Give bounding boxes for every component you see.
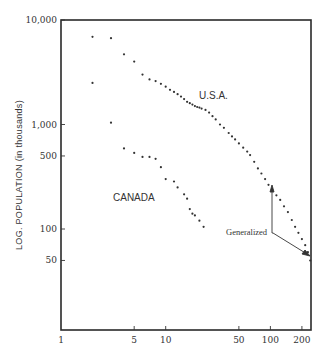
data-point <box>91 36 93 38</box>
data-point <box>165 86 167 88</box>
data-point <box>110 37 112 39</box>
data-point <box>267 184 269 186</box>
data-point <box>133 152 135 154</box>
data-point <box>123 53 125 55</box>
data-point <box>194 214 196 216</box>
data-point <box>201 108 203 110</box>
plot-frame <box>61 20 311 330</box>
x-tick-label: 50 <box>233 335 245 345</box>
data-point <box>160 83 162 85</box>
data-point <box>198 220 200 222</box>
data-point <box>234 138 236 140</box>
data-point <box>246 151 248 153</box>
data-point <box>141 74 143 76</box>
data-point <box>191 104 193 106</box>
data-point <box>186 101 188 103</box>
data-point <box>189 102 191 104</box>
data-point <box>297 232 299 234</box>
data-point <box>264 178 266 180</box>
data-point <box>173 91 175 93</box>
data-point <box>301 238 303 240</box>
data-point <box>123 147 125 149</box>
data-point <box>160 166 162 168</box>
data-point <box>189 208 191 210</box>
rank-size-chart: 151050100200 501005001,00010,000 LOG. PO… <box>0 0 328 362</box>
data-point <box>287 211 289 213</box>
series-canada-points <box>91 82 204 228</box>
data-point <box>260 172 262 174</box>
data-point <box>228 132 230 134</box>
data-point <box>203 226 205 228</box>
data-point <box>215 118 217 120</box>
data-point <box>110 122 112 124</box>
data-point <box>183 98 185 100</box>
y-tick-label: 100 <box>40 224 57 234</box>
data-point <box>291 219 293 221</box>
data-point <box>191 213 193 215</box>
data-point <box>91 82 93 84</box>
data-point <box>275 194 277 196</box>
data-point <box>219 123 221 125</box>
x-axis: 151050100200 <box>58 326 311 345</box>
data-point <box>194 105 196 107</box>
x-tick-label: 100 <box>262 335 279 345</box>
data-point <box>198 107 200 109</box>
data-point <box>279 199 281 201</box>
data-point <box>253 161 255 163</box>
data-point <box>148 156 150 158</box>
y-tick-label: 10,000 <box>26 15 58 25</box>
label-canada: CANADA <box>113 192 155 203</box>
data-point <box>208 112 210 114</box>
data-point <box>242 147 244 149</box>
label-generalized: Generalized <box>226 227 268 237</box>
data-point <box>257 167 259 169</box>
label-usa: U.S.A. <box>199 90 228 101</box>
data-point <box>211 115 213 117</box>
data-point <box>283 205 285 207</box>
data-point <box>223 127 225 129</box>
data-point <box>196 106 198 108</box>
y-tick-label: 50 <box>46 255 58 265</box>
y-axis: 501005001,00010,000 <box>26 15 66 265</box>
data-point <box>169 89 171 91</box>
y-tick-label: 1,000 <box>31 120 57 130</box>
data-point <box>133 61 135 63</box>
data-point <box>141 156 143 158</box>
x-tick-label: 1 <box>58 335 64 345</box>
data-point <box>204 109 206 111</box>
data-point <box>173 180 175 182</box>
x-tick-label: 10 <box>160 335 172 345</box>
data-point <box>183 193 185 195</box>
data-point <box>294 226 296 228</box>
data-point <box>249 154 251 156</box>
data-point <box>231 135 233 137</box>
data-point <box>186 198 188 200</box>
data-point <box>304 244 306 246</box>
data-point <box>177 93 179 95</box>
y-tick-label: 500 <box>40 151 57 161</box>
x-tick-label: 5 <box>131 335 137 345</box>
data-point <box>148 78 150 80</box>
data-point <box>180 96 182 98</box>
data-point <box>155 80 157 82</box>
data-point <box>177 186 179 188</box>
data-point <box>309 259 311 261</box>
data-point <box>238 142 240 144</box>
y-axis-title: LOG. POPULATION (in thousands) <box>14 100 24 250</box>
data-point <box>155 158 157 160</box>
x-tick-label: 200 <box>293 335 310 345</box>
data-point <box>165 178 167 180</box>
